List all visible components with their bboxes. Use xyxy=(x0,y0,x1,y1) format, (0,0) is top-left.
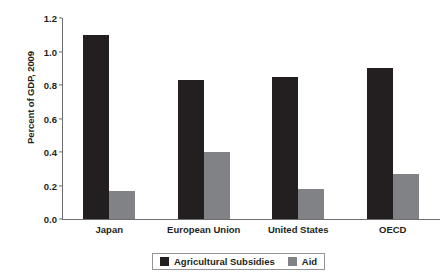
plot-area: 1.21.00.80.60.40.20.0 JapanEuropean Unio… xyxy=(62,18,440,219)
y-tick-label: 0.2 xyxy=(44,180,57,191)
legend-item: Aid xyxy=(288,256,317,267)
x-tick-label: Japan xyxy=(96,224,123,235)
bar-groups xyxy=(62,18,440,219)
bar-aid xyxy=(393,174,419,219)
bar-chart: Percent of GDP, 2009 1.21.00.80.60.40.20… xyxy=(0,0,447,280)
legend-swatch-icon xyxy=(288,257,297,266)
bar-aid xyxy=(298,189,324,219)
bar-subsidies xyxy=(83,35,109,219)
y-tick-label: 0.6 xyxy=(44,113,57,124)
bar-subsidies xyxy=(367,68,393,219)
x-tick-label: European Union xyxy=(167,224,240,235)
bar-group xyxy=(272,18,324,219)
x-tick-label: OECD xyxy=(379,224,406,235)
y-axis-title: Percent of GDP, 2009 xyxy=(25,8,36,188)
bar-group xyxy=(83,18,135,219)
chart-legend: Agricultural SubsidiesAid xyxy=(152,253,325,270)
bar-group xyxy=(367,18,419,219)
y-tick-label: 0.0 xyxy=(44,214,57,225)
bar-subsidies xyxy=(272,77,298,219)
bar-subsidies xyxy=(178,80,204,219)
bar-group xyxy=(178,18,230,219)
y-tick-label: 1.0 xyxy=(44,46,57,57)
x-tick-label: United States xyxy=(268,224,329,235)
bar-aid xyxy=(204,152,230,219)
y-tick-label: 1.2 xyxy=(44,13,57,24)
y-tick-label: 0.8 xyxy=(44,80,57,91)
y-tick-label: 0.4 xyxy=(44,147,57,158)
legend-swatch-icon xyxy=(160,257,169,266)
bar-aid xyxy=(109,191,135,219)
x-axis-line xyxy=(62,219,440,220)
legend-label: Agricultural Subsidies xyxy=(174,256,275,267)
legend-label: Aid xyxy=(302,256,317,267)
legend-item: Agricultural Subsidies xyxy=(160,256,275,267)
